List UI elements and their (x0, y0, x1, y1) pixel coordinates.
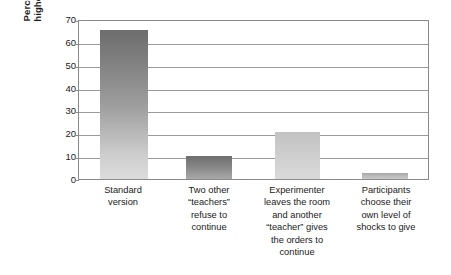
bar-participants-choose-own-level (362, 173, 408, 179)
y-axis-title: Percentage giving the highest level of s… (14, 0, 50, 54)
bar-standard-version (100, 30, 148, 179)
bar-chart: Percentage giving the highest level of s… (0, 0, 451, 275)
y-axis-tick-labels: 70 60 50 40 30 20 10 0 (50, 0, 76, 275)
bar-experimenter-leaves-room (275, 132, 320, 179)
x-axis-category-labels: Standard version Two other “teachers” re… (78, 184, 429, 274)
x-label-participants-choose-own-level: Participants choose their own level of s… (338, 184, 434, 234)
x-label-standard-version: Standard version (74, 184, 172, 209)
y-tick-label-10: 10 (50, 152, 76, 162)
x-label-experimenter-leaves-room: Experimenter leaves the room and another… (242, 184, 352, 258)
y-tick-label-20: 20 (50, 129, 76, 139)
bar-two-other-teachers-refuse (186, 156, 232, 179)
tickmark-0 (75, 180, 79, 181)
plot-area (78, 20, 429, 180)
y-tick-label-70: 70 (50, 15, 76, 25)
y-tick-label-60: 60 (50, 38, 76, 48)
y-tick-label-40: 40 (50, 84, 76, 94)
bars-layer (79, 21, 428, 179)
y-tick-label-50: 50 (50, 61, 76, 71)
y-tick-label-30: 30 (50, 106, 76, 116)
y-tick-label-0: 0 (50, 175, 76, 185)
